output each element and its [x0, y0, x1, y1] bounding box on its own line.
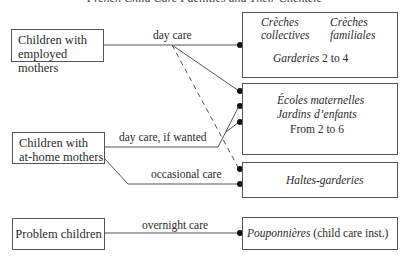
pouponnieres-label: Pouponnières — [247, 227, 310, 239]
client-label-line2: employed mothers — [18, 47, 103, 75]
edge-label-overnight-care: overnight care — [142, 219, 208, 231]
garderies-age-range: 2 to 4 — [322, 52, 348, 64]
client-box-employed-mothers: Children with employed mothers — [11, 29, 104, 62]
facility-box-ecoles-jardins: Écoles maternelles Jardins d’enfants Fro… — [242, 83, 398, 155]
creches-collectives-line2: collectives — [261, 29, 310, 41]
edge-day-care-dashed — [172, 45, 239, 169]
garderies-label: Garderies — [273, 52, 319, 64]
facility-box-creches-garderies: Crèches collectives Crèches familiales G… — [242, 12, 398, 78]
edge-label-day-care: day care — [153, 29, 192, 41]
ecoles-age-range: From 2 to 6 — [290, 123, 344, 135]
edge-label-day-care-if-wanted: day care, if wanted — [119, 131, 206, 143]
client-box-problem-children: Problem children — [12, 218, 105, 250]
creches-familiales-line1: Crèches — [330, 16, 368, 28]
creches-familiales-line2: familiales — [330, 29, 375, 41]
jardins-enfants: Jardins d’enfants — [277, 108, 357, 120]
edge-day-care-to-ecoles — [172, 45, 239, 91]
facility-box-haltes-garderies: Haltes-garderies — [242, 162, 398, 198]
edge-label-occasional-care: occasional care — [151, 168, 222, 180]
client-label-line1: Children with — [19, 136, 104, 150]
facility-box-pouponnieres: Pouponnières (child care inst.) — [242, 217, 398, 250]
pouponnieres-note: (child care inst.) — [313, 227, 388, 239]
garderies-ages: Garderies 2 to 4 — [273, 52, 348, 64]
haltes-garderies: Haltes-garderies — [286, 174, 364, 186]
creches-collectives-line1: Crèches — [261, 16, 299, 28]
client-label: Problem children — [15, 227, 101, 241]
client-label-line2: at-home mothers — [19, 150, 104, 164]
ecoles-maternelles: Écoles maternelles — [277, 94, 364, 106]
client-box-at-home-mothers: Children with at-home mothers — [12, 132, 105, 164]
pouponnieres-text: Pouponnières (child care inst.) — [247, 227, 388, 239]
client-label-line1: Children with — [18, 33, 103, 47]
